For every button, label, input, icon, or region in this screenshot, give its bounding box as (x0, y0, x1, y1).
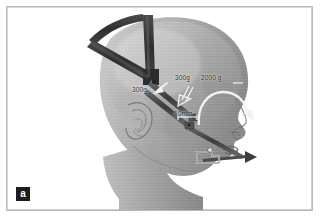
panel-letter-label: a (16, 187, 30, 201)
figure-frame: 300g 300g 2000 g 10mm a (6, 6, 313, 211)
label-force-left: 300g (132, 86, 147, 93)
wire-arrowhead (245, 151, 257, 163)
label-distance-10mm: 10mm (174, 110, 192, 117)
external-ear (122, 97, 152, 139)
illustration-canvas (7, 7, 312, 210)
label-force-right: 2000 g (201, 74, 221, 81)
pivot-b (187, 123, 190, 126)
pivot-c (152, 80, 156, 84)
head-illustration (7, 7, 312, 210)
label-force-mid: 300g (175, 74, 190, 81)
